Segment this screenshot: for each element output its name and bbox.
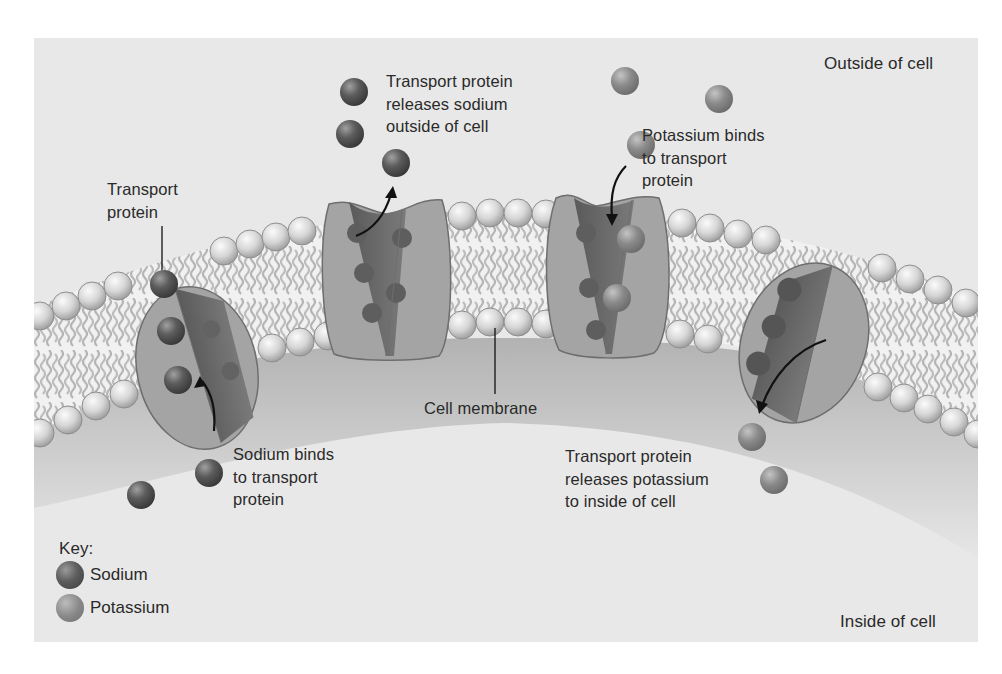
cell-membrane-label: Cell membrane: [424, 397, 537, 420]
outside-of-cell-label: Outside of cell: [824, 53, 933, 76]
releases-potassium-label: Transport protein releases potassium to …: [565, 445, 709, 513]
transport-protein-label: Transport protein: [107, 178, 178, 223]
potassium-ion-outside-1: [611, 67, 639, 95]
sodium-ion-outside-1: [340, 78, 368, 106]
key-title: Key:: [59, 538, 93, 561]
releases-sodium-label: Transport protein releases sodium outsid…: [386, 70, 513, 138]
key-sodium-label: Sodium: [90, 565, 148, 585]
potassium-ion-bound-1: [617, 225, 645, 253]
sodium-ion-outside-3: [382, 149, 410, 177]
diagram-frame: Outside of cell Inside of cell Transport…: [34, 38, 978, 642]
sodium-ion-inside-2: [127, 481, 155, 509]
potassium-ion-inside-1: [738, 423, 766, 451]
key-item-potassium: Potassium: [56, 594, 169, 622]
potassium-ion-inside-2: [760, 466, 788, 494]
potassium-swatch-icon: [56, 594, 84, 622]
potassium-ion-bound-2: [603, 284, 631, 312]
sodium-binds-label: Sodium binds to transport protein: [233, 443, 334, 511]
sodium-swatch-icon: [56, 561, 84, 589]
transport-protein-2: [322, 200, 450, 360]
sodium-ion-inside-1: [195, 459, 223, 487]
sodium-ion-bound-3: [164, 366, 192, 394]
transport-protein-3: [547, 195, 669, 358]
sodium-ion-bound-2: [157, 317, 185, 345]
potassium-ion-outside-2: [705, 85, 733, 113]
inside-of-cell-label: Inside of cell: [840, 611, 936, 634]
key-item-sodium: Sodium: [56, 561, 148, 589]
sodium-ion-outside-2: [336, 120, 364, 148]
potassium-binds-label: Potassium binds to transport protein: [642, 124, 765, 192]
key-potassium-label: Potassium: [90, 598, 169, 618]
sodium-ion-bound-1: [150, 270, 178, 298]
